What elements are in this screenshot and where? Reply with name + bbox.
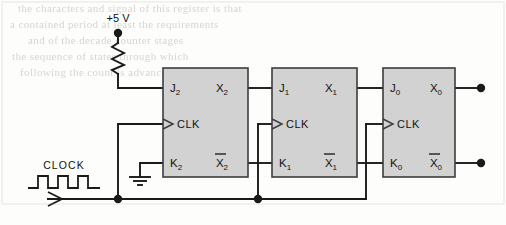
ff2-clk-label: CLK <box>177 118 200 130</box>
clock-signal-label: CLOCK <box>43 159 85 171</box>
flipflop-ff2[interactable]: J2 CLK K2 X2 X2 <box>163 68 248 177</box>
resistor-zigzag <box>112 43 124 74</box>
flipflop-ff0[interactable]: J0 CLK K0 X0 X0 <box>383 68 455 177</box>
circuit-schematic: J2 CLK K2 X2 X2 J1 CLK K1 <box>0 0 506 225</box>
output-terminal-dot-x0 <box>477 84 485 92</box>
clock-waveform <box>28 176 100 188</box>
schematic-canvas: the characters and signal of this regist… <box>0 0 506 225</box>
wire-resistor-to-j2 <box>118 74 163 88</box>
clock-junction-dot-2 <box>254 195 262 203</box>
ff1-clk-label: CLK <box>286 118 309 130</box>
clock-junction-dot-1 <box>114 195 122 203</box>
wire-k2-to-ground <box>140 163 163 176</box>
supply-voltage-label: +5 V <box>107 12 131 24</box>
ff0-clk-label: CLK <box>397 118 420 130</box>
output-terminal-dot-x0-bar <box>477 159 485 167</box>
supply-terminal-dot <box>114 29 122 37</box>
flipflop-ff1[interactable]: J1 CLK K1 X1 X1 <box>272 68 357 177</box>
